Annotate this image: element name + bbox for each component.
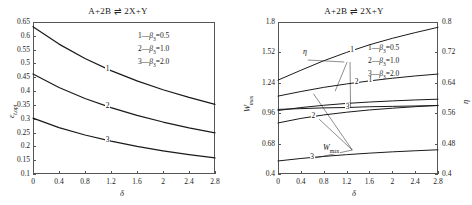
- curve-label: 3: [345, 103, 350, 111]
- annotation-eta: η: [302, 47, 308, 56]
- data-curve: [33, 118, 215, 158]
- curve-label: 1: [368, 76, 373, 84]
- annotation-wmax: Wmax: [322, 143, 340, 154]
- annotation-leader-line: [350, 62, 351, 108]
- data-curve: [33, 74, 215, 133]
- curve-label: 3: [105, 136, 110, 144]
- curve-label: 2: [105, 102, 110, 110]
- curve-label: 2: [354, 78, 359, 86]
- curves-right: [236, 0, 472, 205]
- chart-panel-left: A+2B ⇌ 2X+Y εt,opt δ 0.650.60.550.50.450…: [0, 0, 236, 205]
- chart-panel-right: A+2B ⇌ 2X+Y Wmax η δ 1.81.521.240.960.68…: [236, 0, 472, 205]
- annotation-leader-line: [335, 62, 347, 91]
- curves-left: [0, 0, 236, 205]
- curve-label: 2: [311, 112, 316, 120]
- data-curve: [278, 150, 438, 161]
- curve-label: 3: [310, 153, 315, 161]
- curve-label: 1: [105, 65, 110, 73]
- curve-label: 1: [350, 46, 355, 54]
- data-curve: [278, 105, 438, 123]
- data-curve: [33, 27, 215, 105]
- figure-container: A+2B ⇌ 2X+Y εt,opt δ 0.650.60.550.50.450…: [0, 0, 472, 205]
